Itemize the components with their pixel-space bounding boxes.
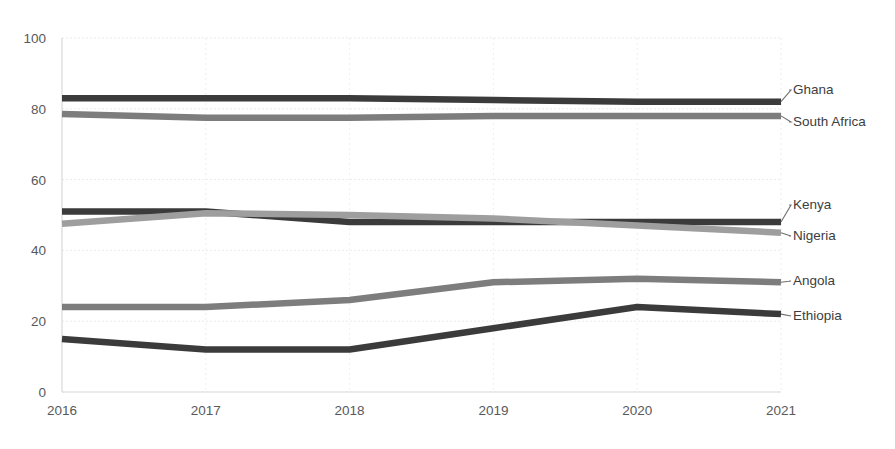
y-tick-label-40: 40 xyxy=(31,243,46,258)
line-chart: 020406080100 201620172018201920202021 Gh… xyxy=(0,0,895,449)
y-tick-label-100: 100 xyxy=(23,31,46,46)
series-label-angola: Angola xyxy=(793,273,836,288)
leader-line-south-africa xyxy=(781,116,791,122)
leader-line-angola xyxy=(781,281,791,282)
y-tick-label-20: 20 xyxy=(31,314,46,329)
series-line-ethiopia xyxy=(62,307,781,349)
y-tick-label-80: 80 xyxy=(31,102,46,117)
series-line-angola xyxy=(62,279,781,307)
series-labels-group: GhanaSouth AfricaKenyaNigeriaAngolaEthio… xyxy=(793,82,866,323)
leader-line-nigeria xyxy=(781,233,791,236)
y-tick-label-60: 60 xyxy=(31,173,46,188)
x-tick-label-2020: 2020 xyxy=(622,403,652,418)
series-leader-lines xyxy=(781,90,791,316)
series-label-south-africa: South Africa xyxy=(793,114,866,129)
series-label-ethiopia: Ethiopia xyxy=(793,308,842,323)
leader-line-ethiopia xyxy=(781,314,791,316)
y-axis-tick-labels: 020406080100 xyxy=(23,31,46,400)
x-tick-label-2018: 2018 xyxy=(335,403,365,418)
x-tick-label-2019: 2019 xyxy=(478,403,508,418)
y-tick-label-0: 0 xyxy=(38,385,46,400)
data-series-group xyxy=(62,98,781,349)
chart-plot-area: 020406080100 201620172018201920202021 Gh… xyxy=(0,0,895,449)
series-label-ghana: Ghana xyxy=(793,82,834,97)
leader-line-kenya xyxy=(781,205,791,222)
leader-line-ghana xyxy=(781,90,791,102)
x-tick-label-2016: 2016 xyxy=(47,403,77,418)
x-axis-tick-labels: 201620172018201920202021 xyxy=(47,403,796,418)
series-line-ghana xyxy=(62,98,781,102)
series-label-kenya: Kenya xyxy=(793,197,832,212)
series-line-south-africa xyxy=(62,114,781,118)
series-label-nigeria: Nigeria xyxy=(793,228,836,243)
x-tick-label-2017: 2017 xyxy=(191,403,221,418)
x-tick-label-2021: 2021 xyxy=(766,403,796,418)
